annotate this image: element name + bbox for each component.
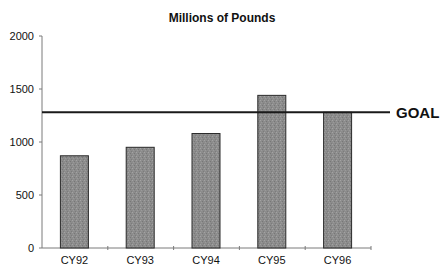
y-tick-label: 1500 <box>10 83 34 95</box>
bar-cy96 <box>324 112 352 248</box>
y-tick-label: 1000 <box>10 136 34 148</box>
x-tick-label: CY95 <box>258 254 286 266</box>
x-tick-label: CY96 <box>324 254 352 266</box>
bar-series: CY92CY93CY94CY95CY96 <box>60 95 351 266</box>
y-tick-label: 500 <box>16 189 34 201</box>
bar-cy92 <box>60 156 88 248</box>
bar-cy93 <box>126 147 154 248</box>
x-tick-label: CY94 <box>192 254 220 266</box>
chart-canvas: Millions of Pounds 0500100015002000 CY92… <box>0 0 447 277</box>
y-axis: 0500100015002000 <box>10 30 42 254</box>
goal-label: GOAL <box>396 104 439 121</box>
bar-cy95 <box>258 95 286 248</box>
goal-reference-line: GOAL <box>42 104 439 121</box>
chart-title: Millions of Pounds <box>169 11 276 25</box>
x-tick-label: CY92 <box>61 254 89 266</box>
bar-chart: Millions of Pounds 0500100015002000 CY92… <box>0 0 447 277</box>
y-tick-label: 2000 <box>10 30 34 42</box>
y-tick-label: 0 <box>28 242 34 254</box>
bar-cy94 <box>192 134 220 248</box>
x-tick-label: CY93 <box>126 254 154 266</box>
